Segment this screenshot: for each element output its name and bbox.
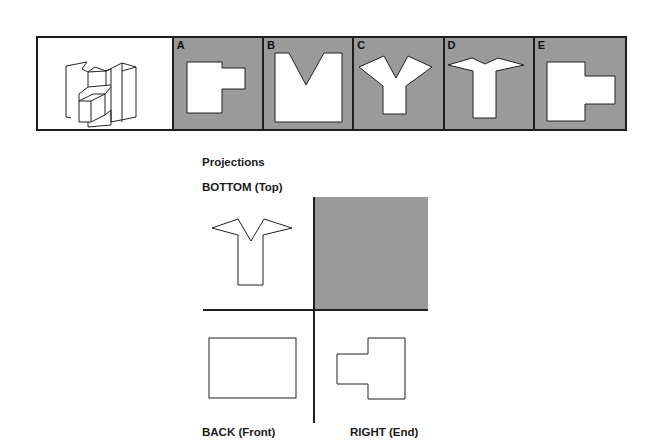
option-b[interactable]: B bbox=[264, 38, 354, 129]
back-view-label: BACK (Front) bbox=[202, 426, 275, 438]
answer-choice-strip: A B C D E bbox=[36, 36, 627, 131]
option-a[interactable]: A bbox=[174, 38, 264, 129]
right-view-stepped-block-icon bbox=[330, 330, 420, 405]
l-shaped-block-icon bbox=[174, 38, 263, 129]
option-d[interactable]: D bbox=[445, 38, 535, 129]
v-notch-square-icon bbox=[264, 38, 353, 129]
bottom-view-y-shape-icon bbox=[200, 215, 310, 305]
back-view-rectangle-icon bbox=[200, 330, 310, 405]
projections-heading: Projections bbox=[202, 156, 265, 168]
right-view-label: RIGHT (End) bbox=[350, 426, 418, 438]
isometric-object-icon bbox=[38, 38, 173, 129]
option-c[interactable]: C bbox=[354, 38, 444, 129]
bottom-view-label: BOTTOM (Top) bbox=[202, 181, 283, 193]
stem-figure-panel bbox=[38, 38, 174, 129]
y-shape-shallow-notch-icon bbox=[445, 38, 534, 129]
option-e[interactable]: E bbox=[535, 38, 625, 129]
t-sideways-block-icon bbox=[535, 38, 624, 129]
y-shape-deep-notch-icon bbox=[354, 38, 443, 129]
blank-projection-square bbox=[315, 197, 428, 309]
horizontal-divider bbox=[203, 309, 428, 311]
